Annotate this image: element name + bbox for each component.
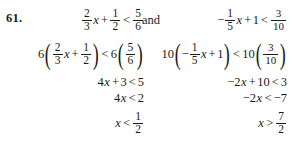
exercise-block: 61. and 2 3 x + 1 2 < 5 6 6 ( — [0, 0, 293, 144]
relation-greater-than: > — [264, 116, 275, 131]
right-line-5: x > 7 2 — [258, 107, 287, 139]
relation-less-than: < — [121, 13, 132, 28]
plus-operator: + — [247, 75, 257, 90]
coefficient: −2 — [227, 75, 240, 90]
relation-less-than: < — [231, 47, 242, 62]
open-paren-icon: ( — [45, 44, 51, 65]
relation-less-than: < — [127, 75, 138, 90]
fraction-two-thirds: 2 3 — [53, 42, 63, 67]
plus-operator: + — [207, 47, 217, 62]
multiplier-six: 6 — [38, 47, 44, 62]
left-line-3: 4 x + 3 < 5 — [98, 75, 144, 90]
right-hand-side: 3 — [281, 75, 287, 90]
open-paren-icon: ( — [175, 44, 181, 65]
left-line-2: 6 ( 2 3 x + 1 2 ) < 6 ( 5 6 — [38, 37, 144, 71]
multiplier-ten-rhs: 10 — [242, 47, 255, 62]
relation-less-than: < — [127, 91, 138, 106]
right-solution-column: − 1 5 x + 1 < 3 10 10 ( − 1 5 — [160, 0, 293, 144]
multiplier-ten: 10 — [162, 47, 175, 62]
fraction-one-half: 1 2 — [133, 111, 143, 136]
close-paren-icon: ) — [137, 44, 143, 65]
fraction-one-half: 1 2 — [81, 42, 91, 67]
right-line-1: − 1 5 x + 1 < 3 10 — [217, 6, 287, 34]
constant: 10 — [257, 75, 270, 90]
close-paren-icon: ) — [280, 44, 286, 65]
plus-operator: + — [70, 47, 80, 62]
open-paren-icon: ( — [118, 44, 124, 65]
left-line-4: 4 x < 2 — [114, 91, 144, 106]
close-paren-icon: ) — [224, 44, 230, 65]
relation-less-than: < — [263, 91, 274, 106]
relation-less-than: < — [259, 13, 270, 28]
fraction-one-fifth: 1 5 — [225, 8, 235, 33]
right-hand-side: 2 — [138, 91, 144, 106]
multiplier-six-rhs: 6 — [111, 47, 117, 62]
fraction-five-sixths: 5 6 — [133, 8, 143, 33]
minus-sign: − — [182, 47, 189, 62]
left-line-2-group: 2 3 x + 1 2 — [52, 42, 92, 67]
fraction-one-half: 1 2 — [110, 8, 120, 33]
relation-less-than: < — [100, 47, 111, 62]
relation-less-than: < — [121, 116, 132, 131]
plus-operator: + — [110, 75, 120, 90]
left-line-1: 2 3 x + 1 2 < 5 6 — [81, 6, 144, 34]
close-paren-icon: ) — [93, 44, 99, 65]
right-line-2-group: − 1 5 x + 1 — [182, 42, 224, 67]
plus-operator: + — [99, 13, 109, 28]
fraction-three-tenths: 3 10 — [271, 8, 286, 32]
problem-number: 61. — [6, 11, 22, 26]
right-hand-side: −7 — [274, 91, 287, 106]
left-solution-column: 2 3 x + 1 2 < 5 6 6 ( 2 3 — [28, 0, 150, 144]
relation-less-than: < — [270, 75, 281, 90]
right-line-2: 10 ( − 1 5 x + 1 ) < 10 ( 3 10 ) — [162, 37, 287, 71]
fraction-seven-halves: 7 2 — [276, 111, 286, 136]
open-paren-icon: ( — [255, 44, 261, 65]
coefficient: −2 — [243, 91, 256, 106]
constant: 1 — [217, 47, 223, 62]
fraction-two-thirds: 2 3 — [82, 8, 92, 33]
fraction-five-sixths: 5 6 — [126, 42, 136, 67]
right-hand-side: 5 — [138, 75, 144, 90]
minus-sign: − — [217, 13, 224, 28]
left-line-5: x < 1 2 — [115, 107, 144, 139]
fraction-one-fifth: 1 5 — [190, 42, 200, 67]
right-line-3: −2 x + 10 < 3 — [227, 75, 287, 90]
right-line-4: −2 x < −7 — [243, 91, 287, 106]
plus-operator: + — [243, 13, 253, 28]
fraction-three-tenths: 3 10 — [263, 42, 278, 66]
